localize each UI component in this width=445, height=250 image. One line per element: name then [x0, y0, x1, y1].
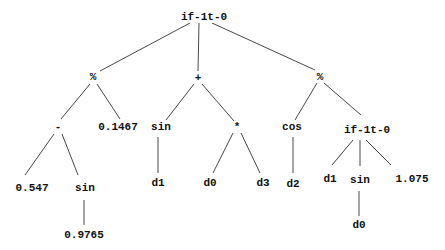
tree-edge [61, 84, 90, 119]
node-const-0-9765: 0.9765 [63, 229, 105, 241]
tree-edge [332, 140, 353, 165]
node-var-d0-inner: d0 [351, 219, 366, 231]
node-multiply: * [233, 121, 242, 133]
tree-edge [295, 83, 317, 120]
tree-edge [213, 133, 233, 173]
tree-edge [202, 84, 234, 121]
node-mod-right: % [316, 71, 325, 83]
tree-edge [198, 23, 199, 71]
tree-edge [212, 23, 315, 70]
tree-edge [324, 83, 361, 115]
node-var-d2: d2 [285, 178, 300, 190]
tree-edge [166, 84, 194, 120]
tree-edge [241, 133, 260, 173]
node-const-1-075: 1.075 [394, 173, 429, 185]
tree-edge [97, 84, 120, 119]
node-sin-d1: sin [150, 121, 172, 133]
tree-edge [25, 134, 54, 175]
node-var-d3: d3 [255, 177, 270, 189]
root-node-if-lt-0: if-1t-0 [180, 11, 228, 23]
node-if-lt-0-inner: if-1t-0 [343, 124, 391, 136]
node-sin-const: sin [74, 182, 96, 194]
node-mod-left: % [89, 71, 98, 83]
node-const-0-1467: 0.1467 [97, 121, 139, 133]
tree-edge [100, 23, 190, 71]
node-var-d1-inner: d1 [322, 173, 337, 185]
node-const-0-547: 0.547 [14, 182, 49, 194]
node-var-d1: d1 [150, 177, 165, 189]
node-var-d0: d0 [202, 177, 217, 189]
tree-edge [366, 140, 391, 165]
node-minus: - [54, 121, 63, 133]
node-plus: + [194, 72, 203, 84]
node-sin-inner: sin [349, 174, 371, 186]
expression-tree-diagram: if-1t-0 % + % - 0.1467 sin * cos if-1t-0… [0, 0, 445, 250]
node-cos: cos [281, 121, 303, 133]
tree-edge [62, 134, 78, 175]
